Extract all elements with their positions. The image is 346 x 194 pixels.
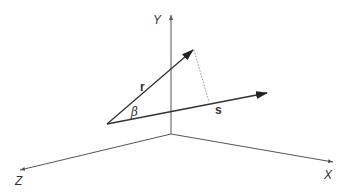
- x-axis-label: X: [324, 169, 332, 181]
- diagram-canvas: [0, 0, 346, 194]
- projection-line: [194, 50, 209, 102]
- z-axis-label: Z: [15, 175, 22, 187]
- vector-r-label: r: [140, 81, 145, 93]
- vector-s-label: s: [215, 104, 222, 116]
- vector-r: [107, 50, 193, 124]
- x-axis: [171, 134, 333, 162]
- z-axis: [20, 134, 171, 170]
- y-axis-label: Y: [153, 14, 161, 26]
- angle-beta-label: β: [131, 106, 138, 118]
